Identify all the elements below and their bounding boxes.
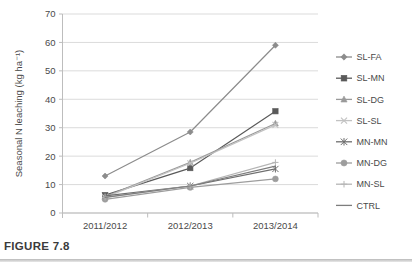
- series-mn-dg: [102, 176, 278, 202]
- legend-item-mn-sl[interactable]: MN-SL: [336, 179, 385, 189]
- legend-label: SL-MN: [357, 73, 385, 83]
- legend-item-mn-mn[interactable]: MN-MN: [336, 137, 388, 147]
- legend-item-sl-dg[interactable]: SL-DG: [336, 95, 384, 105]
- x-tick-labels-group: 2011/20122012/20132013/2014: [83, 220, 298, 231]
- y-tick-labels-group: 010203040506070: [45, 8, 56, 218]
- x-category-label: 2013/2014: [253, 220, 298, 231]
- legend-label: MN-DG: [357, 158, 388, 168]
- legend-label: CTRL: [357, 201, 381, 211]
- line-chart-svg: 010203040506070 2011/20122012/20132013/2…: [0, 0, 412, 236]
- legend-label: MN-MN: [357, 137, 388, 147]
- chart-plot-area: 010203040506070 2011/20122012/20132013/2…: [0, 0, 412, 236]
- legend-label: SL-SL: [357, 116, 382, 126]
- data-point-marker: [102, 173, 108, 179]
- legend-label: MN-SL: [357, 179, 385, 189]
- y-axis-title: Seasonal N leaching (kg ha⁻¹): [13, 50, 24, 178]
- legend-item-sl-mn[interactable]: SL-MN: [336, 73, 385, 83]
- data-point-marker: [341, 54, 347, 60]
- legend-item-ctrl[interactable]: CTRL: [336, 201, 380, 211]
- data-point-marker: [273, 109, 278, 114]
- data-point-marker: [188, 165, 193, 170]
- data-series-group: [102, 42, 279, 202]
- x-category-label: 2011/2012: [83, 220, 127, 231]
- data-point-marker: [341, 160, 347, 166]
- y-tick-label: 20: [45, 151, 56, 162]
- figure-caption-block: FIGURE 7.8: [0, 238, 412, 264]
- legend-item-sl-fa[interactable]: SL-FA: [336, 52, 382, 62]
- legend-group: SL-FASL-MNSL-DGSL-SLMN-MNMN-DGMN-SLCTRL: [336, 52, 388, 210]
- data-point-marker: [272, 159, 278, 165]
- y-tick-label: 0: [50, 207, 55, 218]
- figure-caption-label: FIGURE 7.8: [4, 240, 70, 252]
- data-point-marker: [341, 181, 348, 188]
- y-tick-label: 40: [45, 94, 56, 105]
- data-point-marker: [341, 75, 347, 81]
- y-tick-label: 10: [45, 179, 56, 190]
- legend-item-sl-sl[interactable]: SL-SL: [336, 116, 382, 126]
- series-sl-fa: [102, 42, 278, 179]
- caption-divider: [0, 259, 412, 262]
- y-tick-label: 30: [45, 122, 56, 133]
- legend-label: SL-DG: [357, 95, 385, 105]
- y-tick-label: 60: [45, 37, 56, 48]
- figure-container: 010203040506070 2011/20122012/20132013/2…: [0, 0, 412, 264]
- y-tick-label: 50: [45, 65, 56, 76]
- legend-label: SL-FA: [357, 52, 382, 62]
- x-category-label: 2012/2013: [168, 220, 213, 231]
- y-axis-title-group: Seasonal N leaching (kg ha⁻¹): [13, 50, 24, 178]
- legend-item-mn-dg[interactable]: MN-DG: [336, 158, 387, 168]
- y-tick-label: 70: [45, 8, 56, 19]
- data-point-marker: [273, 176, 279, 182]
